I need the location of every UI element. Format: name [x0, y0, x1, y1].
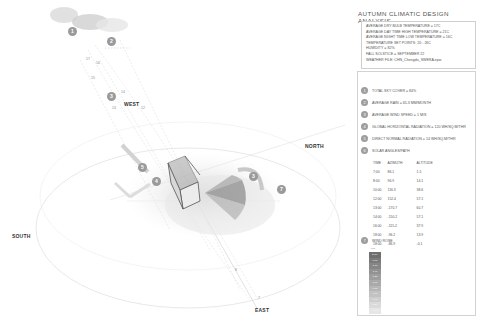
marker-wind-speed: 3	[107, 92, 116, 101]
cell: -115.2	[388, 221, 409, 230]
legend-number-icon: 7	[361, 237, 368, 244]
cell: -0.1	[409, 239, 439, 248]
legend-item: 6SOLAR ANGLES/PATH	[361, 147, 410, 154]
legend-number-icon: 3	[361, 111, 368, 118]
cell: -150.2	[388, 212, 409, 221]
legend-item: 7WIND ROSE	[361, 237, 393, 244]
cell: 14:00	[373, 212, 388, 221]
table-header-row: TIME AZIMUTH ALTITUDE	[373, 158, 439, 167]
column-header: AZIMUTH	[388, 158, 409, 167]
scale-step: <0.00	[369, 308, 381, 314]
column-header: TIME	[373, 158, 388, 167]
hour-tick: 12	[141, 106, 145, 110]
legend-number-icon: 6	[361, 147, 368, 154]
marker-sky-cover: 1	[68, 27, 77, 36]
hour-tick: 8	[235, 268, 237, 272]
climate-summary-box: AVERAGE DRY BULB TEMPERATURE = 17C AVERA…	[361, 21, 476, 69]
legend-number-icon: 2	[361, 99, 368, 106]
column-header: ALTITUDE	[409, 158, 439, 167]
legend-item: 5DIRECT NORMAL RADIATION = 14 WH/SQ.M/TH…	[361, 135, 456, 142]
marker-wind-speed-2: 3	[249, 172, 258, 181]
legend-label: WIND ROSE	[372, 239, 393, 243]
legend-label: GLOBAL HORIZONTAL RADIATION = 120 WH/SQ.…	[372, 125, 466, 129]
cell: 8:00	[373, 176, 388, 185]
legend-label: SOLAR ANGLES/PATH	[372, 149, 410, 153]
legend-item: 3AVERAGE WIND SPEED = 1 M/S	[361, 111, 426, 118]
marker-direct-radiation: 5	[138, 163, 147, 172]
table-row: 7:0086.11.5	[373, 167, 439, 176]
hour-tick: 15	[91, 76, 95, 80]
cell: 152.4	[388, 194, 409, 203]
table-row: 13:00-170.760.7	[373, 203, 439, 212]
cell: 60.7	[409, 203, 439, 212]
compass-east: EAST	[255, 307, 269, 313]
legend-number-icon: 1	[361, 87, 368, 94]
cell: 12:00	[373, 194, 388, 203]
table-row: 14:00-150.257.1	[373, 212, 439, 221]
cell: 96.9	[388, 176, 409, 185]
solar-angles-table: TIME AZIMUTH ALTITUDE 7:0086.11.5 8:0096…	[373, 158, 439, 248]
hour-tick: 14	[121, 90, 125, 94]
cell: -170.7	[388, 203, 409, 212]
hour-tick: 13	[112, 106, 116, 110]
legend-label: DIRECT NORMAL RADIATION = 14 WH/SQ.M/THR	[372, 137, 456, 141]
hour-tick: 16	[96, 61, 100, 65]
cell: 38.6	[409, 185, 439, 194]
cloud-icon	[50, 7, 128, 32]
hour-tick: 7	[258, 296, 260, 300]
cell: 13.9	[409, 230, 439, 239]
table-row: 8:0096.914.1	[373, 176, 439, 185]
compass-north: NORTH	[305, 143, 324, 149]
cell: 7:00	[373, 167, 388, 176]
summary-line: WEATHER FILE: CHN_Chengdu_SWERA.epw	[362, 58, 475, 64]
marker-wind-rose: 7	[277, 185, 286, 194]
legend-label: TOTAL SKY COVER = 84%	[372, 89, 416, 93]
table-row: 10:00116.338.6	[373, 185, 439, 194]
hour-tick: 17	[86, 57, 90, 61]
legend-number-icon: 4	[361, 123, 368, 130]
marker-rain: 2	[107, 37, 116, 46]
cell: 86.1	[388, 167, 409, 176]
legend-item: 2AVERAGE RAIN = 65.3 MM/MONTH	[361, 99, 431, 106]
cell: 116.3	[388, 185, 409, 194]
cell: 57.1	[409, 212, 439, 221]
wind-speed-scale: 2.00< 1.80 1.60 1.40 1.20 1.00 0.80 0.60…	[369, 252, 381, 314]
legend-number-icon: 5	[361, 135, 368, 142]
compass-south: SOUTH	[12, 233, 31, 239]
legend-label: AVERAGE RAIN = 65.3 MM/MONTH	[372, 101, 431, 105]
cell: 57.1	[409, 194, 439, 203]
cell: 13:00	[373, 203, 388, 212]
marker-global-radiation: 4	[152, 177, 161, 186]
cell: 37.9	[409, 221, 439, 230]
cell: 16:00	[373, 221, 388, 230]
legend-item: 4GLOBAL HORIZONTAL RADIATION = 120 WH/SQ…	[361, 123, 466, 130]
table-row: 16:00-115.237.9	[373, 221, 439, 230]
legend-box: 1TOTAL SKY COVER = 84% 2AVERAGE RAIN = 6…	[357, 71, 476, 316]
wind-scale-unit: m/s	[371, 247, 375, 250]
table-row: 12:00152.457.1	[373, 194, 439, 203]
compass-west: WEST	[124, 101, 139, 107]
legend-label: AVERAGE WIND SPEED = 1 M/S	[372, 113, 426, 117]
cell: 10:00	[373, 185, 388, 194]
cell: 14.1	[409, 176, 439, 185]
legend-item: 1TOTAL SKY COVER = 84%	[361, 87, 416, 94]
cell: 1.5	[409, 167, 439, 176]
